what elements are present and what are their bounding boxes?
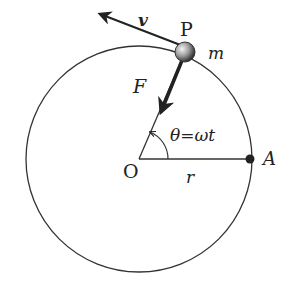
particle-label: P	[180, 18, 193, 40]
center-label: O	[123, 160, 139, 182]
angle-arc	[150, 132, 168, 159]
force-arrow	[161, 58, 183, 112]
particle-mass	[175, 42, 195, 62]
angle-label: θ=ωt	[170, 125, 215, 145]
velocity-label: v	[138, 10, 149, 30]
circular-motion-diagram: v P m F θ=ωt O r A	[0, 0, 284, 283]
radius-label: r	[186, 167, 195, 187]
point-a-label: A	[261, 148, 276, 169]
mass-label: m	[208, 43, 224, 63]
force-label: F	[132, 75, 147, 97]
point-a-dot	[246, 155, 255, 164]
diagram-canvas: v P m F θ=ωt O r A	[0, 0, 284, 283]
